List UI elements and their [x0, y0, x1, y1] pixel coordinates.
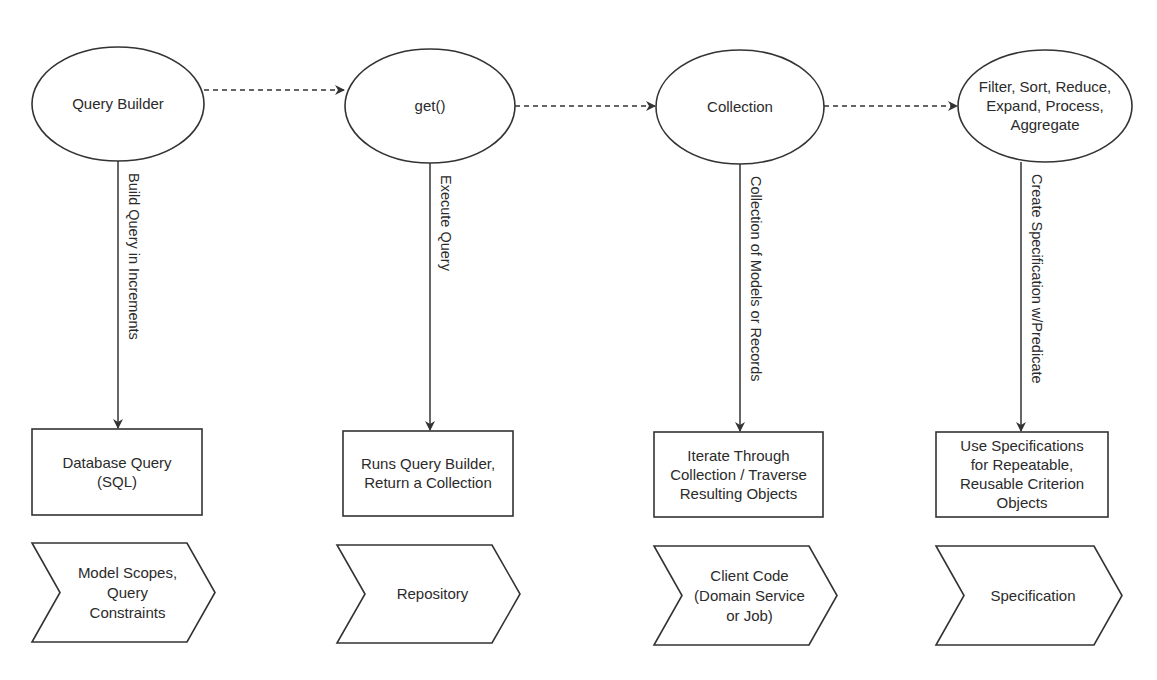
node-label: Collection	[707, 98, 773, 115]
box-label-line: Collection / Traverse	[670, 465, 807, 482]
chevron-label: Repository	[397, 585, 469, 602]
box-label-line: Use Specifications	[960, 437, 1083, 454]
chevron-label: Specification	[990, 586, 1075, 603]
node-label-line: Collection	[707, 98, 773, 115]
edge-label: Collection of Models or Records	[748, 176, 764, 382]
layer-chevron: Repository	[337, 545, 520, 643]
edge-label: Execute Query	[438, 175, 454, 272]
stage-3: CollectionCollection of Models or Record…	[654, 50, 837, 645]
chevron-label-line: Query	[107, 583, 148, 600]
node-label-line: get()	[415, 97, 446, 114]
layer-chevron: Model Scopes,QueryConstraints	[32, 543, 215, 642]
box-label: Iterate ThroughCollection / TraverseResu…	[670, 446, 807, 501]
stage-1: Query BuilderBuild Query in IncrementsDa…	[32, 47, 215, 642]
flow-arrows	[204, 90, 957, 106]
result-box: Use Specificationsfor Repeatable,Reusabl…	[936, 432, 1108, 517]
stages: Query BuilderBuild Query in IncrementsDa…	[32, 47, 1132, 645]
stage-2: get()Execute QueryRuns Query Builder,Ret…	[337, 49, 520, 643]
layer-chevron: Client Code(Domain Serviceor Job)	[654, 546, 837, 645]
box-label-line: Database Query	[62, 453, 172, 470]
result-box: Runs Query Builder,Return a Collection	[343, 431, 513, 516]
box-label-line: Resulting Objects	[680, 484, 798, 501]
chevron-label-line: Client Code	[710, 566, 788, 583]
chevron-label-line: Repository	[397, 585, 469, 602]
chevron-label-line: Specification	[990, 586, 1075, 603]
chevron-label-line: Model Scopes,	[78, 563, 177, 580]
node-label: Query Builder	[72, 95, 164, 112]
layer-chevron: Specification	[936, 546, 1122, 645]
box-label-line: (SQL)	[97, 472, 137, 489]
box-label-line: Return a Collection	[364, 474, 492, 491]
process-node: Query Builder	[32, 47, 204, 161]
result-box: Database Query(SQL)	[32, 429, 202, 515]
box-label-line: Iterate Through	[687, 446, 789, 463]
node-label-line: Expand, Process,	[986, 97, 1104, 114]
stage-4: Filter, Sort, Reduce,Expand, Process,Agg…	[936, 50, 1132, 645]
node-label-line: Filter, Sort, Reduce,	[979, 78, 1112, 95]
process-node: Filter, Sort, Reduce,Expand, Process,Agg…	[958, 50, 1132, 162]
node-label: get()	[415, 97, 446, 114]
result-box: Iterate ThroughCollection / TraverseResu…	[654, 432, 823, 517]
edge-label: Build Query in Increments	[126, 173, 142, 340]
node-label-line: Query Builder	[72, 95, 164, 112]
chevron-label-line: Constraints	[90, 603, 166, 620]
architecture-flow-diagram: Query BuilderBuild Query in IncrementsDa…	[0, 0, 1157, 680]
chevron-label-line: (Domain Service	[694, 586, 805, 603]
edge-label: Create Specification w/Predicate	[1029, 174, 1045, 384]
box-label-line: Runs Query Builder,	[361, 455, 495, 472]
chevron-label-line: or Job)	[726, 606, 773, 623]
process-node: Collection	[656, 50, 824, 164]
box-label-line: for Repeatable,	[971, 456, 1074, 473]
process-node: get()	[345, 49, 515, 163]
node-label-line: Aggregate	[1010, 116, 1079, 133]
box-label-line: Reusable Criterion	[960, 475, 1084, 492]
box-label-line: Objects	[997, 494, 1048, 511]
